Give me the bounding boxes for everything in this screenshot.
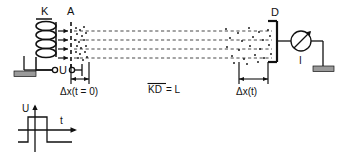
terminal-left — [52, 67, 57, 72]
distance-kd-label: KD = L — [148, 84, 181, 96]
coil-bottom-lead — [36, 57, 52, 70]
current-label: I — [299, 55, 302, 66]
emission-arrow — [58, 56, 68, 60]
anode-label: A — [67, 5, 75, 17]
graph-y-label: U — [22, 103, 29, 114]
graph-x-arrowhead — [71, 127, 78, 132]
coil-turn — [36, 39, 56, 48]
coil-turn — [36, 21, 56, 30]
delta-x-time-dimension — [239, 62, 268, 84]
delta-x-initial-dimension — [71, 62, 89, 84]
ground-left — [14, 71, 36, 77]
delta-x-time-label: Δx(t) — [236, 86, 257, 97]
graph-x-label: t — [60, 115, 63, 126]
emission-arrow — [58, 38, 68, 42]
emission-arrow — [58, 47, 68, 51]
cathode-coil — [36, 19, 56, 70]
electron-packet-spread — [225, 27, 272, 65]
voltage-pulse-graph: U t — [18, 103, 77, 152]
distance-equals-text: = L — [166, 84, 181, 95]
detector-label: D — [271, 6, 279, 18]
emission-arrows — [58, 29, 68, 60]
detector-electrode — [268, 21, 277, 62]
coil-turn — [36, 48, 56, 57]
graph-y-arrowhead — [32, 105, 37, 111]
terminal-right — [69, 67, 74, 72]
distance-kd-text: KD — [148, 84, 162, 95]
coil-turn — [36, 30, 56, 39]
voltage-source-label: U — [59, 64, 67, 76]
emission-arrow — [58, 29, 68, 33]
meter-needle-line — [294, 32, 310, 48]
delta-x-initial-label: Δx(t = 0) — [60, 86, 98, 97]
electron-trajectory-lines — [74, 31, 272, 58]
electron-time-of-flight-diagram: Δx(t = 0) Δx(t) KD = L K A D U I — [0, 0, 338, 160]
figure-canvas: Δx(t = 0) Δx(t) KD = L K A D U I — [0, 0, 338, 160]
ground-right — [313, 66, 334, 72]
cathode-label: K — [41, 5, 49, 17]
